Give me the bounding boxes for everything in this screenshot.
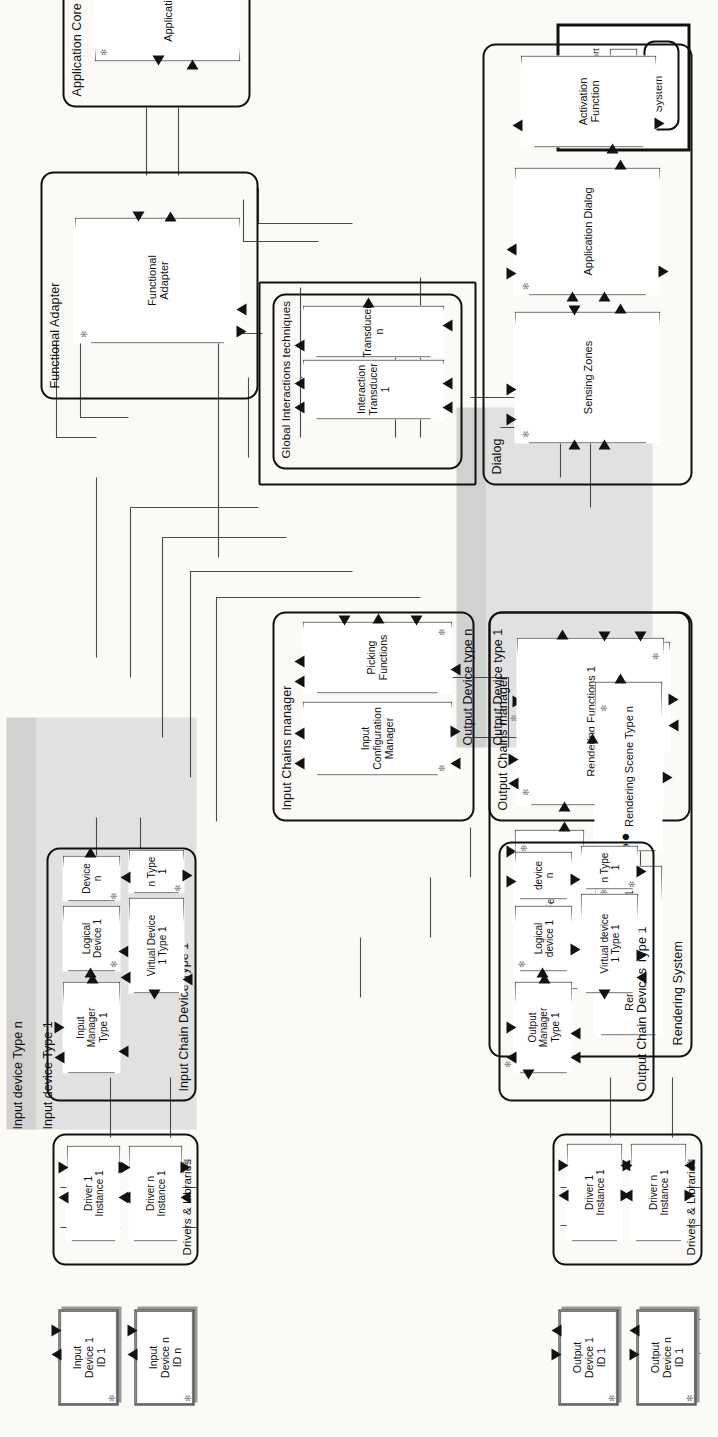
system-output-drivers-libraries[interactable]: Drivers & Libraries ✻ Driver 1 Instance … [552,1133,702,1265]
process-label: Input Manager Type 1 [62,981,120,1073]
process-output-virtual-device-n-type-1[interactable]: n Type 1 ✻ [580,845,638,889]
port-out-icon [186,59,198,69]
port-up-icon [294,401,304,413]
port-pin-icon: ✻ [98,47,108,55]
port-down-icon [551,1348,561,1360]
process-label: Application Core [94,0,240,61]
process-input-driver-n-instance-1[interactable]: Driver n Instance 1 [128,1145,182,1241]
process-rendering-scene-type-n[interactable]: Rendering Scene Type n ✻ [594,681,662,851]
port-up-icon-2 [570,1051,580,1063]
port-out-icon [164,211,176,221]
port-up-icon [622,1189,632,1201]
port-up-icon [506,243,516,255]
process-logical-device-1[interactable]: Logical Device 1 ✻ [62,905,120,971]
port-out-icon [556,629,568,639]
device-output-device-1-id-1[interactable]: Output Device 1 ID 1 ✻ [558,1309,618,1405]
process-output-driver-n-instance-1[interactable]: Driver n Instance 1 [630,1143,686,1241]
process-input-driver-1-instance-1[interactable]: Driver 1 Instance 1 [66,1145,120,1241]
port-up-icon-2 [182,973,192,985]
diagram-page: KEY Event + Data port Process System Fun… [0,0,718,1437]
port-down-icon [636,865,646,877]
process-output-logical-device-n[interactable]: device n [514,851,572,899]
port-pin-icon: ✻ [172,883,182,891]
rotated-canvas-wrapper: KEY Event + Data port Process System Fun… [0,0,718,1437]
port-up-icon-2 [118,1045,128,1057]
port-in-icon-2 [410,615,422,625]
port-in-icon-2 [598,439,610,449]
device-label: Output Device n ID 1 [637,1310,695,1404]
port-down-icon [654,117,664,129]
port-down-icon [570,943,580,955]
port-up-icon-2 [180,1191,190,1203]
port-pin-icon: ✻ [182,1393,192,1401]
process-output-driver-1-instance-1[interactable]: Driver 1 Instance 1 [566,1143,622,1241]
port-pin-icon: ✻ [516,959,526,967]
process-output-manager-type-1[interactable]: Output Manager Type 1 ✻ [514,981,572,1073]
port-out-icon [614,159,626,169]
device-input-device-1-id-1[interactable]: Input Device 1 ID 1 ✻ [58,1309,118,1405]
port-out-icon-3 [634,631,646,641]
system-application-core[interactable]: Application Core Application Core ✻ [62,0,250,107]
system-input-drivers-libraries[interactable]: Drivers & Libraries ✻ Driver 1 Instance … [52,1133,198,1265]
process-output-logical-device-1[interactable]: Logical device 1 ✻ [514,905,572,971]
port-up-icon [51,1348,61,1360]
process-interaction-transducer-1[interactable]: Interaction Transducer 1 [302,359,444,419]
process-application-core[interactable]: Application Core ✻ [94,0,240,61]
port-up-icon-4 [442,377,452,389]
process-input-manager-type-1[interactable]: Input Manager Type 1 [62,981,120,1073]
port-pin-icon: ✻ [520,429,530,437]
port-out-icon [362,297,374,307]
system-title: Rendering System [670,941,684,1045]
process-label: Driver 1 Instance 1 [566,1143,622,1241]
diagram-canvas: KEY Event + Data port Process System Fun… [0,0,718,1437]
port-out-icon [372,613,384,623]
port-down-icon-2 [180,1161,190,1173]
process-output-virtual-device-1-type-1[interactable]: Virtual device 1 Type 1 [580,893,638,993]
port-down-icon [629,1348,639,1360]
system-functional-adapter[interactable]: Functional Adapter Functional Adapter ✻ [40,171,258,399]
system-input-chains-manager[interactable]: Input Chains manager Input Configuration… [272,611,474,821]
port-up-icon-3 [442,401,452,413]
process-activation-function[interactable]: Activation Function [520,55,656,147]
port-down-icon [51,1324,61,1336]
port-in-icon [568,439,580,449]
process-virtual-device-n-type-1[interactable]: n Type 1 ✻ [128,849,184,893]
port-down-icon [622,1159,632,1171]
process-input-configuration-manager[interactable]: Input Configuration Manager ✻ [302,701,452,775]
system-dialog[interactable]: Dialog Sensing Zones ✻ Application Dialo… [482,43,692,485]
process-functional-adapter[interactable]: Functional Adapter ✻ [74,217,240,343]
process-sensing-zones[interactable]: Sensing Zones ✻ [514,311,660,443]
system-output-chain-devices-type-1[interactable]: Output Chain Devices Type 1 Output Manag… [498,841,654,1101]
device-output-device-n-id-1[interactable]: Output Device n ID 1 ✻ [636,1309,696,1405]
system-global-interactions-techniques[interactable]: Global Interactions techniques Interacti… [272,293,462,469]
process-application-dialog[interactable]: Application Dialog ✻ [514,167,660,295]
device-input-device-n-id-n[interactable]: Input Device n ID n ✻ [134,1309,194,1405]
process-picking-functions[interactable]: Picking Functions ✻ [302,621,452,693]
port-up-icon [551,1324,561,1336]
port-down-icon [506,267,516,279]
port-in-icon [152,55,164,65]
port-up-icon [294,339,304,351]
process-label: Virtual Device 1 Type 1 [128,897,184,993]
process-label: Virtual device 1 Type 1 [580,893,638,993]
caption-input-device-type-1: Input device Type 1 [40,1021,54,1129]
port-up-icon-2 [294,727,304,739]
process-label: device n [514,851,572,899]
device-label: Input Device n ID n [135,1310,193,1404]
port-up-icon [120,871,130,883]
port-pin-icon: ✻ [520,281,530,289]
process-label: Picking Functions [302,621,452,693]
port-up-icon-3 [450,757,460,769]
device-label: Output Device 1 ID 1 [559,1310,617,1404]
port-pin-icon-2: ✻ [650,651,660,659]
system-input-chain-device-type-1[interactable]: Input Chain Device Type 1 Input Manager … [46,847,196,1101]
process-transducer-n[interactable]: Transducer n [302,305,444,357]
port-pin-icon: ✻ [606,1393,616,1401]
port-in-icon [338,615,350,625]
process-label: Driver n Instance 1 [630,1143,686,1241]
process-logical-device-n[interactable]: Device n ✻ [62,855,120,901]
port-up-icon [636,971,646,983]
caption-output-device-type-n: Output Device type n [460,628,474,745]
process-virtual-device-1-type-1[interactable]: Virtual Device 1 Type 1 [128,897,184,993]
caption-output-device-type-1: Output Device type 1 [490,628,504,745]
